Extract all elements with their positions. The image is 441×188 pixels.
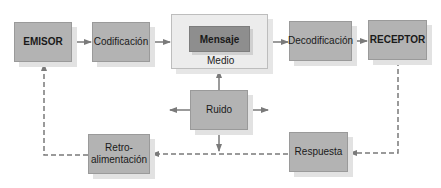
- retroalimentacion-label-line2: alimentación: [91, 154, 147, 166]
- mensaje-label: Mensaje: [200, 34, 239, 45]
- mensaje-box: Mensaje: [189, 26, 250, 52]
- respuesta-label: Respuesta: [295, 146, 343, 158]
- decodificacion-label: Decodificación: [288, 35, 353, 47]
- receptor-box: RECEPTOR: [368, 20, 427, 60]
- emisor-label: EMISOR: [23, 36, 62, 48]
- receptor-label: RECEPTOR: [370, 34, 425, 46]
- emisor-box: EMISOR: [14, 22, 72, 62]
- ruido-box: Ruido: [190, 90, 248, 130]
- retroalimentacion-box: Retro- alimentación: [88, 134, 150, 174]
- dashed-receptor-respuesta: [350, 61, 398, 153]
- respuesta-box: Respuesta: [289, 132, 348, 172]
- retroalimentacion-label-line1: Retro-: [105, 142, 133, 154]
- dashed-retroalimentacion-emisor: [44, 64, 88, 155]
- medio-box: Mensaje Medio: [171, 14, 268, 69]
- ruido-label: Ruido: [206, 104, 232, 116]
- decodificacion-box: Decodificación: [289, 21, 352, 61]
- codificacion-box: Codificación: [92, 22, 150, 62]
- medio-label: Medio: [207, 55, 234, 66]
- codificacion-label: Codificación: [94, 36, 148, 48]
